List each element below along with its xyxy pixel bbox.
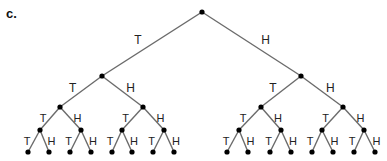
tree-node	[245, 149, 250, 154]
tree-node	[236, 127, 241, 132]
tree-node	[171, 149, 176, 154]
label-heads: H	[126, 81, 135, 95]
tree-node	[298, 73, 303, 78]
label-heads: H	[48, 135, 56, 147]
label-heads: H	[261, 33, 270, 47]
tree-node	[161, 127, 166, 132]
label-tails: T	[349, 135, 356, 147]
tree-node	[88, 149, 93, 154]
branch-heads	[202, 12, 301, 76]
label-heads: H	[130, 135, 138, 147]
tree-node	[372, 149, 377, 154]
tree-node	[340, 104, 345, 109]
probability-tree-diagram: THTHTHTHTHTHTHTHTHTHTHTHTHTHTH	[0, 0, 387, 161]
tree-node	[330, 149, 335, 154]
tree-node	[78, 127, 83, 132]
tree-node	[278, 127, 283, 132]
label-heads: H	[247, 135, 255, 147]
label-tails: T	[24, 135, 31, 147]
label-tails: T	[269, 81, 277, 95]
label-heads: H	[172, 135, 180, 147]
label-tails: T	[69, 81, 77, 95]
tree-node	[46, 149, 51, 154]
label-heads: H	[326, 81, 335, 95]
tree-nodes	[25, 9, 377, 154]
label-heads: H	[157, 112, 165, 124]
label-heads: H	[373, 135, 381, 147]
branch-tails	[261, 76, 301, 107]
tree-node	[25, 149, 30, 154]
tree-node	[150, 149, 155, 154]
label-tails: T	[122, 112, 129, 124]
label-heads: H	[89, 135, 97, 147]
tree-node	[309, 149, 314, 154]
tree-node	[224, 149, 229, 154]
branch-heads	[301, 76, 343, 107]
label-tails: T	[265, 135, 272, 147]
label-tails: T	[223, 135, 230, 147]
tree-node	[140, 104, 145, 109]
label-heads: H	[74, 112, 82, 124]
label-tails: T	[322, 112, 329, 124]
tree-node	[129, 149, 134, 154]
tree-node	[267, 149, 272, 154]
tree-node	[37, 127, 42, 132]
tree-node	[258, 104, 263, 109]
label-tails: T	[134, 33, 142, 47]
label-heads: H	[331, 135, 339, 147]
branch-tails	[102, 12, 202, 76]
tree-node	[199, 9, 204, 14]
branch-heads	[102, 76, 143, 107]
tree-node	[57, 104, 62, 109]
label-tails: T	[65, 135, 72, 147]
branch-tails	[354, 130, 364, 152]
branch-tails	[60, 76, 102, 107]
branch-tails	[112, 130, 122, 152]
label-tails: T	[240, 112, 247, 124]
label-tails: T	[148, 135, 155, 147]
label-heads: H	[274, 112, 282, 124]
tree-node	[67, 149, 72, 154]
tree-node	[319, 127, 324, 132]
label-heads: H	[289, 135, 297, 147]
tree-node	[99, 73, 104, 78]
branch-labels: THTHTHTHTHTHTHTHTHTHTHTHTHTHTH	[24, 33, 381, 147]
label-tails: T	[307, 135, 314, 147]
tree-node	[361, 127, 366, 132]
label-tails: T	[107, 135, 114, 147]
branch-tails	[312, 130, 322, 152]
tree-node	[119, 127, 124, 132]
label-tails: T	[40, 112, 47, 124]
label-heads: H	[357, 112, 365, 124]
tree-node	[288, 149, 293, 154]
tree-node	[109, 149, 114, 154]
tree-node	[351, 149, 356, 154]
